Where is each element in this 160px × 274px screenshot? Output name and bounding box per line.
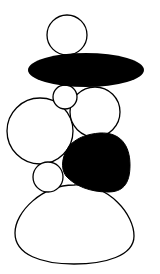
small-pebble xyxy=(53,85,77,109)
top-stone xyxy=(47,15,87,55)
small-lower-pebble xyxy=(33,162,63,192)
black-blob-stone xyxy=(63,133,130,192)
cairn-illustration xyxy=(0,0,160,274)
base-dome-stone xyxy=(15,185,134,264)
medium-right-stone xyxy=(70,87,120,137)
flat-black-stone xyxy=(28,53,144,87)
